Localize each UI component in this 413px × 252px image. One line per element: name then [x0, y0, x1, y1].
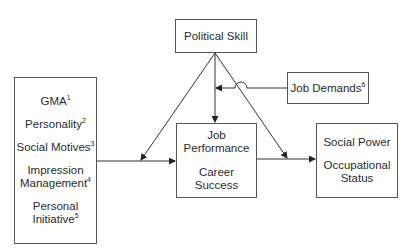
antecedent-social-motives: Social Motives3	[16, 141, 94, 154]
antecedent-personal-initiative: PersonalInitiative5	[32, 200, 78, 226]
job-demands-node: Job Demands6	[287, 72, 369, 104]
antecedent-impression-management: ImpressionManagement4	[20, 164, 91, 190]
political-skill-node: Political Skill	[175, 19, 257, 53]
outcome-performance: Performance	[184, 142, 250, 155]
antecedent-personality: Personality2	[25, 118, 86, 131]
distal-status: Status	[341, 172, 374, 185]
outcome-career-success: Career Success	[177, 166, 256, 192]
outcomes-node: Job Performance Career Success	[176, 123, 257, 198]
antecedents-node: GMA1 Personality2 Social Motives3 Impres…	[14, 77, 97, 244]
arrow-job-demands-moderates	[216, 82, 287, 88]
political-skill-label: Political Skill	[184, 30, 248, 43]
job-demands-label: Job Demands6	[291, 82, 366, 95]
distal-social-power: Social Power	[323, 136, 390, 149]
distal-occupational: Occupational	[323, 159, 390, 172]
distal-outcomes-node: Social Power Occupational Status	[316, 123, 398, 198]
antecedent-gma: GMA1	[40, 95, 70, 108]
outcome-job: Job	[207, 129, 226, 142]
